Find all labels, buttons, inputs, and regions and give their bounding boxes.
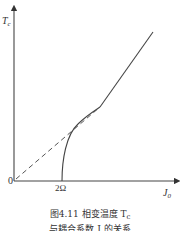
x-axis-label-sub: 0 (167, 192, 171, 200)
x-axis-label: J0 (163, 188, 171, 200)
tc-curve (62, 107, 100, 181)
figure-caption-line1: 图4.11 相变温度 Tc (0, 210, 180, 221)
y-axis-label: Tc (2, 16, 11, 28)
y-axis-label-sub: c (8, 20, 11, 28)
x-tick-2omega: 2Ω (55, 184, 66, 193)
dashed-asymptote-line (16, 107, 100, 179)
caption-subscript: c (126, 213, 130, 221)
phase-transition-chart (0, 0, 180, 231)
solid-asymptote-line (100, 32, 153, 107)
origin-label: 0 (8, 176, 13, 186)
figure-caption-line2: 与耦合系数 J 的关系 (0, 225, 180, 231)
caption-text: 图4.11 相变温度 T (50, 209, 127, 219)
